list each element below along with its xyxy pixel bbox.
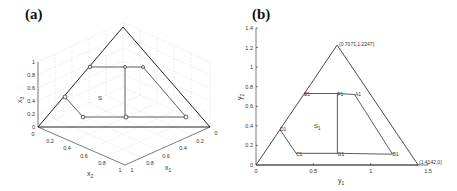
svg-text:1.2: 1.2 xyxy=(245,45,253,51)
panel-a-x1-label: x1 xyxy=(165,164,172,173)
panel-b-y-ticks: 0 0.2 0.4 0.6 0.8 1 1.2 1.4 xyxy=(245,25,253,168)
svg-text:0.5: 0.5 xyxy=(309,168,317,174)
svg-text:0.4: 0.4 xyxy=(245,123,253,129)
svg-text:0.8: 0.8 xyxy=(98,160,106,166)
point-b xyxy=(184,115,188,119)
svg-text:1.4: 1.4 xyxy=(245,25,253,31)
svg-text:0.8: 0.8 xyxy=(146,160,154,166)
svg-text:1: 1 xyxy=(118,167,121,173)
panel-a-x1-ticks: 0 0.2 0.4 0.6 0.8 1 xyxy=(130,130,217,173)
svg-text:1: 1 xyxy=(32,59,35,65)
svg-text:0: 0 xyxy=(254,168,257,174)
svg-text:D1: D1 xyxy=(280,126,287,132)
svg-text:1: 1 xyxy=(369,168,372,174)
svg-text:0.6: 0.6 xyxy=(162,153,170,159)
panel-b-axes xyxy=(256,28,428,165)
panel-b-region-label: S1 xyxy=(314,123,321,131)
svg-text:0.8: 0.8 xyxy=(27,72,35,78)
panel-b-point-labels: E1 F1 A1 D1 C1 G1 B1 xyxy=(280,91,399,158)
panel-b-canvas: 0 0.2 0.4 0.6 0.8 1 1.2 1.4 0 0.5 1 1.5 … xyxy=(230,0,457,191)
svg-text:0.4: 0.4 xyxy=(179,145,187,151)
point-d xyxy=(63,95,67,99)
panel-b-x-ticks: 0 0.5 1 1.5 xyxy=(254,168,431,174)
svg-text:0.4: 0.4 xyxy=(27,98,35,104)
svg-text:C1: C1 xyxy=(296,151,303,157)
panel-a-3d-plot: (a) xyxy=(0,0,230,191)
svg-text:0.2: 0.2 xyxy=(196,138,204,144)
svg-text:B1: B1 xyxy=(393,151,399,157)
point-e xyxy=(88,65,92,69)
point-a xyxy=(142,66,145,69)
point-c xyxy=(81,115,85,119)
panel-a-z-ticks: 0 0.2 0.4 0.6 0.8 1 xyxy=(27,59,35,130)
svg-text:F1: F1 xyxy=(338,91,344,97)
svg-text:0: 0 xyxy=(32,124,35,130)
svg-text:E1: E1 xyxy=(304,91,310,97)
svg-text:0.2: 0.2 xyxy=(245,142,253,148)
svg-text:G1: G1 xyxy=(338,151,345,157)
svg-text:0.6: 0.6 xyxy=(245,103,253,109)
panel-b-corner-label: (1.4142,0) xyxy=(419,159,442,165)
panel-b-2d-plot: (b) 0 0.2 0.4 0.6 0.8 1 1.2 1.4 xyxy=(230,0,457,191)
panel-a-x2-label: x2 xyxy=(87,170,94,179)
panel-a-x2-ticks: 0 0.2 0.4 0.6 0.8 1 xyxy=(31,131,121,173)
panel-a-points xyxy=(63,65,188,119)
panel-a-grid xyxy=(38,22,210,157)
svg-text:1: 1 xyxy=(250,64,253,70)
panel-b-apex-label: (0.7071,1.2247) xyxy=(339,41,375,47)
point-g xyxy=(124,115,128,119)
svg-text:A1: A1 xyxy=(355,91,361,97)
svg-text:0: 0 xyxy=(31,131,34,137)
panel-b-y-label: y2 xyxy=(236,94,245,101)
panel-b-x-label: y1 xyxy=(338,177,345,186)
svg-text:0.4: 0.4 xyxy=(63,145,71,151)
svg-text:0: 0 xyxy=(214,130,217,136)
panel-a-region-label: S xyxy=(98,95,102,101)
svg-text:0.8: 0.8 xyxy=(245,84,253,90)
svg-text:0.2: 0.2 xyxy=(27,111,35,117)
panel-a-simplex xyxy=(38,27,210,127)
svg-text:0.6: 0.6 xyxy=(80,153,88,159)
panel-a-canvas: S 0 0.2 0.4 0.6 0.8 1 0 0.2 0.4 0.6 0.8 … xyxy=(0,0,230,191)
svg-text:0.2: 0.2 xyxy=(46,138,54,144)
svg-text:0: 0 xyxy=(250,162,253,168)
svg-text:0.6: 0.6 xyxy=(27,85,35,91)
panel-a-x3-label: x3 xyxy=(16,97,25,104)
point-f xyxy=(124,66,127,69)
svg-text:1: 1 xyxy=(130,167,133,173)
svg-text:1.5: 1.5 xyxy=(424,168,432,174)
